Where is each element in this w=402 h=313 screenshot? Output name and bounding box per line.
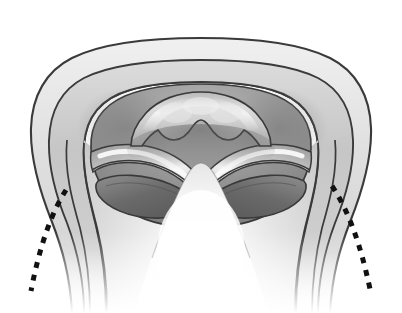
anatomical-figure: Axial cross-sectional anatomical illustr…	[0, 0, 402, 313]
bottom-fade-overlay	[0, 232, 402, 313]
arch-center-bump-highlight	[183, 97, 219, 115]
anatomy-illustration	[0, 0, 402, 313]
